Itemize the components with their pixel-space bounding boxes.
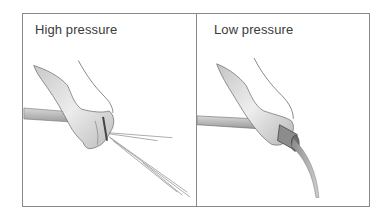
hand-holding-hose-illustration bbox=[197, 14, 369, 206]
panel-low-pressure: Low pressure bbox=[197, 14, 369, 206]
water-stream bbox=[291, 139, 319, 198]
hand-pinching-hose-illustration bbox=[23, 14, 196, 206]
comparison-figure: High pressure bbox=[22, 13, 370, 207]
water-spray bbox=[109, 133, 190, 197]
panel-high-pressure: High pressure bbox=[23, 14, 197, 206]
hand bbox=[34, 65, 114, 148]
